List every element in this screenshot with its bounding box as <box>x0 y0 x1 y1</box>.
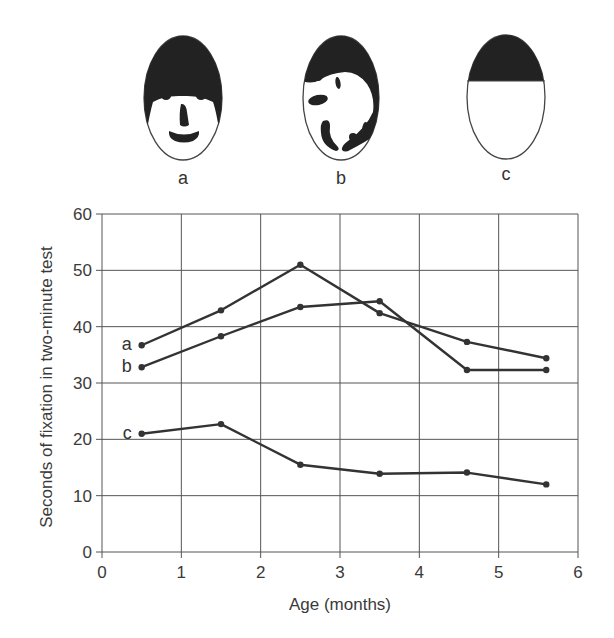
data-point <box>464 469 470 475</box>
data-point <box>464 339 470 345</box>
data-point <box>218 307 224 313</box>
gridlines <box>96 214 578 558</box>
data-point <box>218 421 224 427</box>
series-label-c: c <box>123 423 132 443</box>
face-label-a: a <box>178 168 189 188</box>
y-axis-label: Seconds of fixation in two-minute test <box>37 246 56 528</box>
series-label-b: b <box>122 356 132 376</box>
data-point <box>543 355 549 361</box>
series-line-b <box>142 301 547 370</box>
face-label-b: b <box>336 168 346 188</box>
x-tick-label: 0 <box>97 563 106 582</box>
y-tick-label: 50 <box>73 261 92 280</box>
y-tick-label: 40 <box>73 318 92 337</box>
x-tick-label: 4 <box>415 563 424 582</box>
data-point <box>297 461 303 467</box>
tick-labels: 01234560102030405060 <box>73 205 583 582</box>
series-line-c <box>142 424 547 484</box>
face-label-c: c <box>502 164 511 184</box>
x-tick-label: 6 <box>573 563 582 582</box>
face-a: a <box>140 30 226 188</box>
x-axis-label: Age (months) <box>289 595 391 614</box>
series-lines: abc <box>122 262 550 488</box>
data-point <box>376 470 382 476</box>
x-tick-label: 3 <box>335 563 344 582</box>
data-point <box>376 298 382 304</box>
data-point <box>297 262 303 268</box>
data-point <box>543 481 549 487</box>
y-tick-label: 60 <box>73 205 92 224</box>
y-tick-label: 20 <box>73 430 92 449</box>
face-c: c <box>460 30 555 184</box>
x-tick-label: 2 <box>256 563 265 582</box>
y-tick-label: 10 <box>73 487 92 506</box>
x-tick-label: 5 <box>494 563 503 582</box>
data-point <box>464 367 470 373</box>
face-b: b <box>300 30 385 188</box>
y-tick-label: 0 <box>83 543 92 562</box>
x-tick-label: 1 <box>177 563 186 582</box>
data-point <box>138 431 144 437</box>
data-point <box>297 304 303 310</box>
series-label-a: a <box>122 334 133 354</box>
figure: a b c 01234560102030405060 abc Age (mont… <box>0 0 614 638</box>
line-chart: 01234560102030405060 abc Age (months) Se… <box>37 205 583 614</box>
data-point <box>138 364 144 370</box>
data-point <box>376 310 382 316</box>
data-point <box>138 342 144 348</box>
data-point <box>543 367 549 373</box>
data-point <box>218 333 224 339</box>
y-tick-label: 30 <box>73 374 92 393</box>
